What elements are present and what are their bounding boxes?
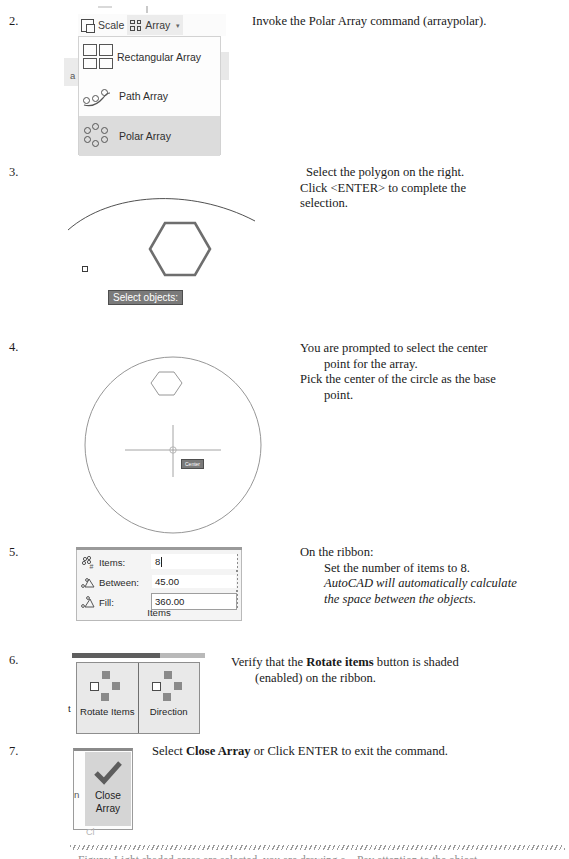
fill-input-value: 360.00 — [155, 596, 184, 607]
items-count-icon: # — [81, 556, 96, 569]
array-items-panel: # Items: 8 Between: 45.00 — [76, 549, 242, 621]
items-input[interactable]: 8 — [151, 554, 237, 569]
menu-item-rectangular-array[interactable]: Rectangular Array — [79, 37, 220, 77]
step-5-description: On the ribbon: Set the number of items t… — [300, 545, 562, 607]
step-7-line-1: Select Close Array or Click ENTER to exi… — [152, 744, 552, 760]
step-2-description: Invoke the Polar Array command (arraypol… — [252, 14, 564, 30]
text-caret — [161, 557, 162, 567]
ribbon-background-strip-right — [221, 52, 229, 80]
array-properties-panel: Rotate Items Direction — [76, 662, 200, 734]
step-4-line-1: You are prompted to select the center — [300, 341, 562, 357]
step-number-6: 6. — [9, 653, 18, 668]
polar-array-icon — [83, 123, 115, 149]
step-4-description: You are prompted to select the center po… — [300, 341, 562, 403]
items-panel-title: Items — [77, 607, 241, 618]
tutorial-page: 2. Scale Array ▾ a Rectangular Array — [0, 0, 569, 859]
array-dropdown-menu: Rectangular Array Path Array — [78, 36, 221, 155]
footer-caption: Figure: Light shaded areas are selected,… — [78, 854, 477, 859]
step-number-2: 2. — [9, 14, 18, 29]
step-5-line-1: On the ribbon: — [300, 545, 562, 561]
step-3-drawing — [60, 185, 290, 330]
step-3-line-3: selection. — [300, 196, 560, 212]
menu-item-rectangular-array-label: Rectangular Array — [117, 51, 201, 63]
step-5-line-4: the space between the objects. — [300, 592, 562, 608]
center-osnap-tooltip: Center — [181, 459, 204, 469]
panel-top-border — [76, 547, 242, 550]
between-row: Between: — [81, 574, 147, 590]
rotate-items-button[interactable]: Rotate Items — [77, 663, 138, 733]
step-4-canvas: Center — [78, 352, 268, 534]
direction-button[interactable]: Direction — [138, 663, 200, 733]
fill-row-label: Fill: — [99, 597, 147, 608]
crosshair-pickbox — [82, 266, 88, 272]
items-row: # Items: — [81, 554, 147, 570]
rotate-items-icon — [86, 671, 128, 703]
svg-text:#: # — [90, 562, 94, 569]
step-3-line-2: Click <ENTER> to complete the — [300, 181, 560, 197]
step-4-line-3: Pick the center of the circle as the bas… — [300, 372, 562, 388]
step-7-description: Select Close Array or Click ENTER to exi… — [152, 744, 552, 760]
step-number-5: 5. — [9, 545, 18, 560]
rotate-items-label: Rotate Items — [80, 706, 134, 717]
angle-between-icon — [81, 576, 96, 589]
items-row-label: Items: — [99, 557, 147, 568]
direction-icon — [148, 671, 190, 703]
close-panel-partial-label: n — [74, 789, 79, 800]
scale-button-label: Scale — [98, 19, 124, 31]
step-6-line-1: Verify that the Rotate items button is s… — [231, 655, 561, 671]
close-array-label: Close Array — [95, 789, 121, 815]
footer-divider — [70, 845, 565, 850]
chevron-down-icon[interactable]: ▾ — [176, 22, 180, 29]
ribbon-divider-stub — [98, 6, 112, 8]
close-array-label-line-1: Close — [95, 789, 121, 802]
array-dropdown-button[interactable]: Array ▾ — [127, 15, 183, 35]
step-4-line-4: point. — [300, 388, 562, 404]
menu-item-polar-array-label: Polar Array — [119, 130, 171, 142]
scale-button[interactable]: Scale — [78, 19, 127, 32]
ribbon-partial-label: a — [70, 70, 75, 81]
step-number-4: 4. — [9, 340, 18, 355]
array-button-label: Array — [145, 19, 170, 31]
direction-label: Direction — [150, 706, 188, 717]
close-array-label-line-2: Array — [95, 802, 121, 815]
step-4-line-2: point for the array. — [300, 357, 562, 373]
ribbon-divider-stub-2 — [146, 6, 148, 13]
scale-icon — [81, 19, 94, 32]
between-input-value: 45.00 — [155, 576, 179, 587]
step-5-line-2: Set the number of items to 8. — [300, 561, 562, 577]
step-3-line-1: Select the polygon on the right. — [300, 165, 560, 181]
ribbon-scrollbar[interactable] — [72, 653, 205, 658]
array-icon — [130, 20, 141, 31]
between-row-label: Between: — [99, 577, 147, 588]
step-number-7: 7. — [9, 744, 18, 759]
step-number-3: 3. — [9, 165, 18, 180]
step-5-line-3: AutoCAD will automatically calculate — [300, 576, 562, 592]
step-3-description: Select the polygon on the right. Click <… — [300, 165, 560, 212]
menu-item-path-array[interactable]: Path Array — [79, 77, 220, 117]
menu-item-polar-array[interactable]: Polar Array — [79, 116, 220, 156]
properties-panel-partial-label: t — [68, 703, 71, 714]
step-6-line-2: (enabled) on the ribbon. — [231, 671, 561, 687]
checkmark-icon — [93, 760, 123, 786]
select-objects-tooltip: Select objects: — [108, 290, 183, 305]
rectangular-array-icon — [83, 44, 113, 69]
step-6-description: Verify that the Rotate items button is s… — [231, 655, 561, 686]
ribbon-modify-group: Scale Array ▾ — [78, 14, 226, 36]
path-array-icon — [83, 85, 115, 107]
close-array-button[interactable]: Close Array — [85, 752, 131, 826]
between-input[interactable]: 45.00 — [151, 574, 237, 589]
items-input-value: 8 — [155, 556, 160, 567]
close-panel-ghost-text: Cl — [86, 827, 95, 837]
menu-item-path-array-label: Path Array — [119, 90, 168, 102]
step-3-canvas: Select objects: — [60, 185, 290, 330]
step-4-drawing — [78, 352, 268, 534]
